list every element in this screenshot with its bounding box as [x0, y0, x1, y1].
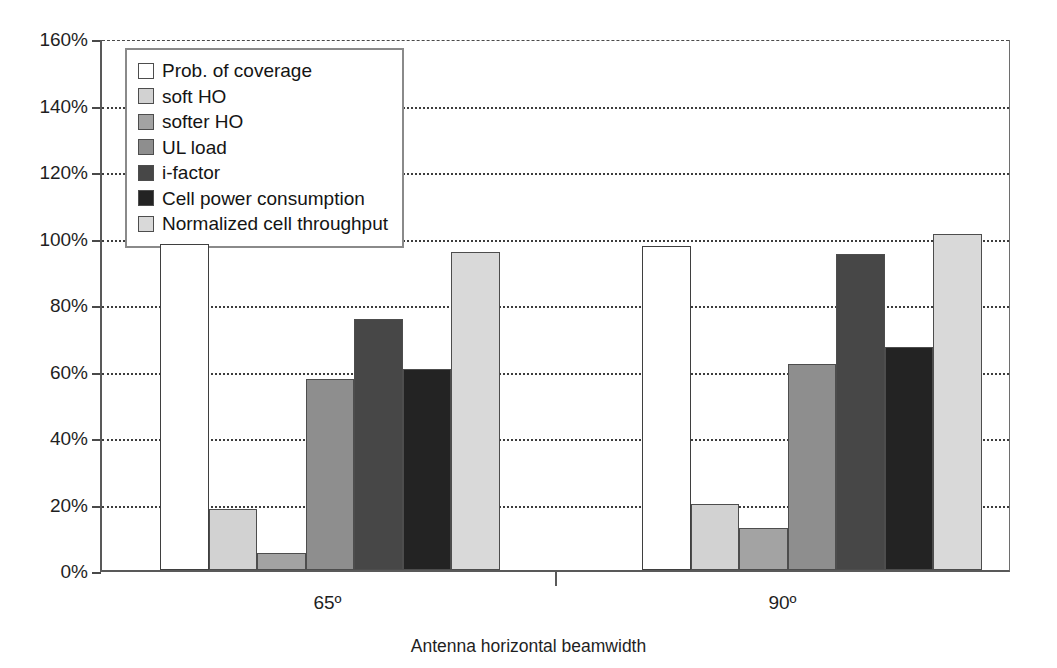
legend-item-label: softer HO [162, 112, 243, 131]
legend-item: softer HO [138, 109, 388, 135]
bar [691, 504, 740, 571]
bar [642, 246, 691, 570]
y-axis-tick-label: 0% [16, 562, 88, 581]
gridline [102, 40, 1009, 41]
legend-swatch-icon [138, 139, 154, 155]
y-axis-tick-label: 160% [16, 30, 88, 49]
legend-swatch-icon [138, 63, 154, 79]
y-axis-tick-label: 100% [16, 230, 88, 249]
y-axis-tick-label: 120% [16, 163, 88, 182]
bar [306, 379, 355, 570]
legend-item: Cell power consumption [138, 186, 388, 212]
x-axis-tick-mark [555, 572, 557, 586]
legend-swatch-icon [138, 88, 154, 104]
y-axis-tick-label: 80% [16, 296, 88, 315]
legend-swatch-icon [138, 114, 154, 130]
legend-item: soft HO [138, 84, 388, 110]
y-axis-tick-label: 20% [16, 496, 88, 515]
x-axis-tick-label: 90º [703, 592, 863, 614]
legend-item: Normalized cell throughput [138, 211, 388, 237]
legend-swatch-icon [138, 165, 154, 181]
legend-item-label: i-factor [162, 163, 220, 182]
legend-item-label: soft HO [162, 87, 226, 106]
legend-swatch-icon [138, 216, 154, 232]
y-axis-tick-label: 140% [16, 97, 88, 116]
bar [451, 252, 500, 570]
x-axis-title: Antenna horizontal beamwidth [0, 636, 1057, 657]
bar [933, 234, 982, 570]
bar [836, 254, 885, 570]
bar [739, 528, 788, 570]
y-axis-tick-label: 60% [16, 363, 88, 382]
bar [885, 347, 934, 570]
legend-item-label: Normalized cell throughput [162, 214, 388, 233]
y-axis-tick-label: 40% [16, 429, 88, 448]
legend-item-label: Cell power consumption [162, 189, 365, 208]
bar [354, 319, 403, 570]
legend-item-label: Prob. of coverage [162, 61, 312, 80]
bar [257, 553, 306, 570]
bar [403, 369, 452, 570]
legend-swatch-icon [138, 190, 154, 206]
legend-item: UL load [138, 135, 388, 161]
y-axis-tick-mark [92, 572, 101, 574]
bar [209, 509, 258, 571]
legend-item: Prob. of coverage [138, 58, 388, 84]
chart-legend: Prob. of coveragesoft HOsofter HOUL load… [125, 48, 404, 248]
bar-chart: 0%20%40%60%80%100%120%140%160% 65º90º An… [0, 0, 1057, 668]
legend-item: i-factor [138, 160, 388, 186]
legend-item-label: UL load [162, 138, 227, 157]
bar [160, 244, 209, 570]
x-axis-tick-label: 65º [248, 592, 408, 614]
bar [788, 364, 837, 570]
